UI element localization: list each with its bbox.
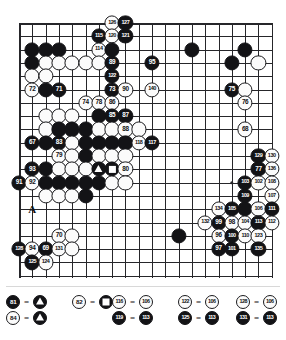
triangle-marker-icon (36, 298, 44, 305)
legend-equals-sign: = (130, 297, 135, 307)
go-stone-white[interactable] (65, 242, 80, 257)
stone-move-number: 111 (268, 206, 275, 212)
go-stone-black-135[interactable]: 135 (251, 242, 266, 257)
go-stone-black[interactable] (224, 55, 239, 70)
board-star-point (230, 181, 233, 184)
stone-move-number: 87 (122, 113, 128, 119)
stone-move-number: 80 (122, 166, 128, 172)
legend-stone-white-82: 82 (72, 295, 86, 309)
legend-stone-white-84: 84 (6, 311, 20, 325)
legend-move-number: 106 (142, 299, 150, 304)
stone-move-number: 107 (268, 193, 276, 199)
stone-move-number: 120 (108, 34, 116, 40)
legend-stone-black-marker (99, 295, 113, 309)
legend-entry: 128=106 (236, 294, 277, 310)
board-letter-marker-a: A (28, 203, 36, 215)
go-stone-white[interactable] (118, 175, 133, 190)
go-stone-black-117[interactable]: 117 (144, 135, 159, 150)
board-gridline-vertical (192, 23, 193, 278)
legend-entry: 81= (6, 294, 47, 310)
stone-move-number: 85 (109, 113, 115, 119)
legend-entry: 116=106 (112, 294, 153, 310)
legend-equals-sign: = (24, 313, 29, 323)
go-stone-black-101[interactable]: 101 (224, 242, 239, 257)
go-stone-black[interactable] (171, 228, 186, 243)
board-gridline-horizontal (19, 23, 272, 25)
stone-move-number: 117 (148, 140, 155, 146)
triangle-marker-icon (95, 165, 103, 172)
legend-stone-black-113: 113 (139, 311, 153, 325)
square-marker-icon (109, 166, 116, 173)
stone-move-number: 83 (56, 139, 62, 145)
legend-column: 122=106125=113 (178, 294, 219, 326)
stone-move-number: 75 (229, 86, 235, 92)
stone-move-number: 101 (228, 246, 236, 252)
stone-move-number: 113 (255, 220, 262, 226)
board-gridline-horizontal (19, 76, 272, 77)
go-stone-white-140[interactable]: 140 (144, 82, 159, 97)
stone-move-number: 108 (268, 180, 276, 186)
legend-move-number: 82 (76, 299, 82, 305)
stone-move-number: 103 (241, 180, 249, 186)
stone-move-number: 121 (122, 34, 130, 40)
stone-move-number: 102 (255, 180, 263, 186)
stone-move-number: 91 (16, 179, 22, 185)
stone-move-number: 94 (29, 246, 35, 252)
legend-move-number: 113 (208, 315, 215, 320)
stone-move-number: 135 (255, 246, 263, 252)
stone-move-number: 92 (29, 179, 35, 185)
go-board-grid: 1261271151201211148995122727173901407574… (19, 23, 272, 278)
legend-entry: 84= (6, 310, 47, 326)
go-stone-black-71[interactable]: 71 (51, 82, 66, 97)
stone-move-number: 122 (108, 73, 116, 79)
legend-move-number: 122 (181, 299, 189, 304)
go-stone-black-121[interactable]: 121 (118, 29, 133, 44)
board-gridline-vertical (19, 23, 21, 278)
stone-move-number: 88 (122, 126, 128, 132)
stone-move-number: 73 (109, 86, 115, 92)
stone-move-number: 128 (15, 246, 23, 252)
legend-stone-black-113: 113 (205, 311, 219, 325)
legend-equals-sign: = (196, 297, 201, 307)
stone-move-number: 69 (42, 246, 48, 252)
stone-move-number: 90 (122, 86, 128, 92)
legend-column: 128=106131=113 (236, 294, 277, 326)
legend-stone-black-113: 113 (263, 311, 277, 325)
go-stone-white-68[interactable]: 68 (238, 122, 253, 137)
go-stone-black[interactable] (238, 42, 253, 57)
go-stone-white-124[interactable]: 124 (38, 255, 53, 270)
legend-stone-white-128: 128 (236, 295, 250, 309)
legend-equals-sign: = (196, 313, 201, 323)
go-stone-white[interactable] (251, 55, 266, 70)
stone-move-number: 100 (228, 233, 236, 239)
legend-move-number: 113 (266, 315, 273, 320)
legend-equals-sign: = (130, 313, 135, 323)
go-stone-white-76[interactable]: 76 (238, 95, 253, 110)
stone-move-number: 136 (268, 167, 276, 173)
stone-move-number: 104 (241, 220, 249, 226)
stone-move-number: 126 (108, 20, 116, 26)
legend-move-number: 128 (239, 299, 247, 304)
go-stone-black[interactable] (78, 188, 93, 203)
legend-stone-white-106: 106 (205, 295, 219, 309)
board-gridline-vertical (165, 23, 166, 278)
go-stone-black-95[interactable]: 95 (144, 55, 159, 70)
legend-stone-white-106: 106 (263, 295, 277, 309)
board-gridline-vertical (139, 23, 140, 278)
board-gridline-vertical (205, 23, 206, 278)
stone-move-number: 124 (42, 260, 50, 266)
board-gridline-horizontal (19, 36, 272, 37)
go-stone-black[interactable] (184, 42, 199, 57)
stone-move-number: 70 (56, 233, 62, 239)
stone-move-number: 93 (29, 166, 35, 172)
stone-move-number: 98 (229, 219, 235, 225)
stone-move-number: 74 (82, 100, 88, 106)
legend-entry: 119=113 (112, 310, 153, 326)
stone-move-number: 89 (109, 60, 115, 66)
stone-move-number: 97 (215, 246, 221, 252)
go-stone-white-112[interactable]: 112 (264, 215, 279, 230)
legend-equals-sign: = (254, 297, 259, 307)
go-stone-white-90[interactable]: 90 (118, 82, 133, 97)
legend-equals-sign: = (254, 313, 259, 323)
triangle-marker-icon (36, 314, 44, 321)
